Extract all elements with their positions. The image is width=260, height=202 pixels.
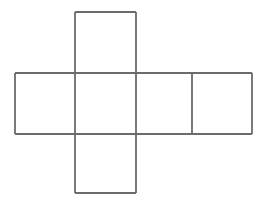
right-face: [136, 73, 192, 134]
far-right-face: [192, 73, 252, 134]
bottom-face: [75, 134, 136, 193]
top-face: [75, 12, 136, 73]
cube-net-svg: [0, 0, 260, 202]
cube-net-figure: Cross-shaped net of a cube made of six s…: [0, 0, 260, 202]
left-face: [15, 73, 75, 134]
center-face: [75, 73, 136, 134]
